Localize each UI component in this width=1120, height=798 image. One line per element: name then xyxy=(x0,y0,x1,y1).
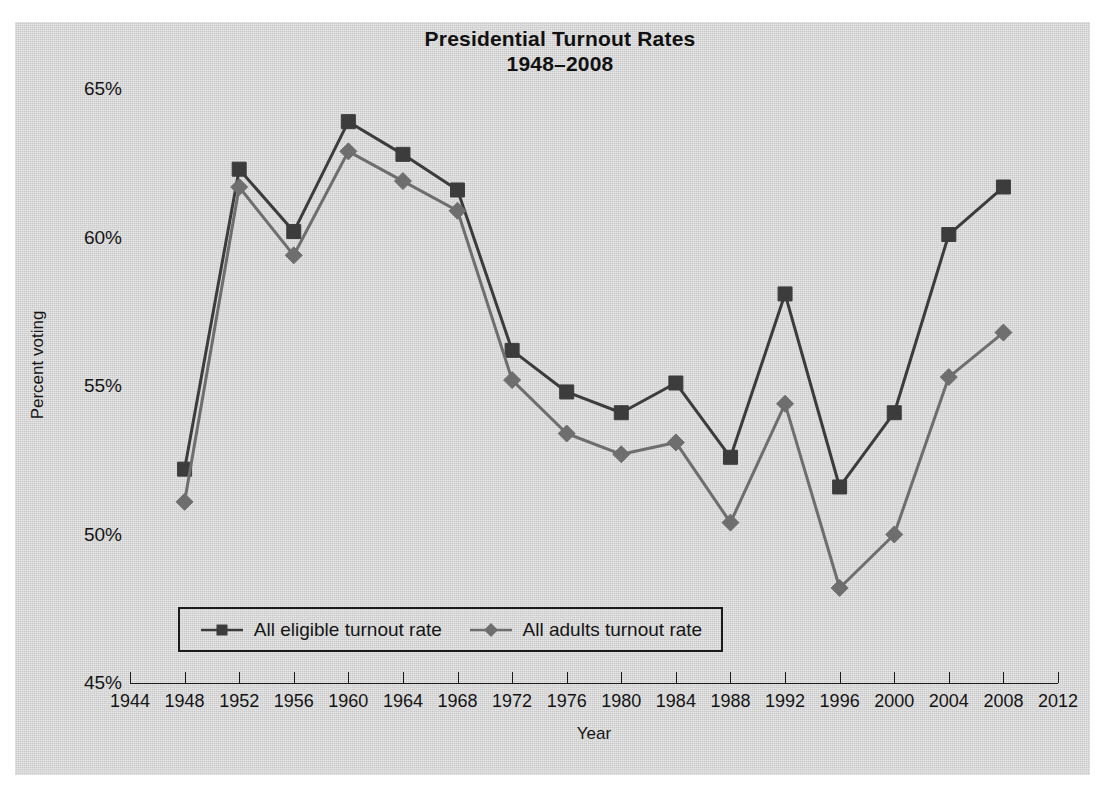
x-axis-tick-mark xyxy=(130,672,131,683)
series-adults xyxy=(176,143,1012,597)
data-point-marker xyxy=(394,173,411,190)
x-axis-tick-mark xyxy=(1003,672,1004,683)
chart-title: Presidential Turnout Rates 1948–2008 xyxy=(0,26,1120,76)
x-axis-tick-labels: 1944194819521956196019641968197219761980… xyxy=(130,691,1058,717)
x-axis-tick-mark xyxy=(458,672,459,683)
data-point-marker xyxy=(833,480,847,494)
legend-item[interactable]: All adults turnout rate xyxy=(468,619,703,641)
data-point-marker xyxy=(560,385,574,399)
y-axis-tick-label: 50% xyxy=(56,524,122,546)
legend-diamond-marker-icon xyxy=(468,621,514,639)
data-point-marker xyxy=(669,376,683,390)
x-axis-title: Year xyxy=(130,724,1058,744)
data-point-marker xyxy=(613,446,630,463)
x-axis-tick-mark xyxy=(185,672,186,683)
y-axis-title: Percent voting xyxy=(28,265,48,465)
x-axis-tick-marks xyxy=(130,672,1058,684)
legend-item[interactable]: All eligible turnout rate xyxy=(199,619,442,641)
data-point-marker xyxy=(778,287,792,301)
series-line xyxy=(185,122,1004,487)
chart-legend: All eligible turnout rateAll adults turn… xyxy=(178,607,723,652)
y-axis-tick-label: 60% xyxy=(56,227,122,249)
data-point-marker xyxy=(614,406,628,420)
y-axis-tick-labels: 65%60%55%50%45% xyxy=(50,89,122,683)
x-axis-tick-mark xyxy=(403,672,404,683)
y-axis-tick-label: 55% xyxy=(56,375,122,397)
data-point-marker xyxy=(667,434,684,451)
data-point-marker xyxy=(722,514,739,531)
x-axis-tick-mark xyxy=(730,672,731,683)
series-line xyxy=(185,151,1004,588)
data-point-marker xyxy=(340,143,357,160)
x-axis-tick-mark xyxy=(894,672,895,683)
data-point-marker xyxy=(996,180,1010,194)
x-axis-tick-mark xyxy=(676,672,677,683)
x-axis-tick-mark xyxy=(840,672,841,683)
data-point-marker xyxy=(287,225,301,239)
x-axis-tick-mark xyxy=(785,672,786,683)
data-point-marker xyxy=(396,147,410,161)
data-point-marker xyxy=(176,493,193,510)
plot-area xyxy=(130,89,1058,683)
x-axis-tick-mark xyxy=(239,672,240,683)
series-canvas xyxy=(130,89,1058,683)
data-point-marker xyxy=(232,162,246,176)
data-point-marker xyxy=(942,228,956,242)
y-axis-tick-label: 65% xyxy=(56,78,122,100)
legend-item-label: All eligible turnout rate xyxy=(254,619,442,641)
data-point-marker xyxy=(723,450,737,464)
x-axis-tick-mark xyxy=(294,672,295,683)
x-axis-tick-mark xyxy=(512,672,513,683)
x-axis-tick-label: 2012 xyxy=(1023,691,1093,712)
data-point-marker xyxy=(341,115,355,129)
data-point-marker xyxy=(451,183,465,197)
legend-item-label: All adults turnout rate xyxy=(523,619,703,641)
chart-title-line1: Presidential Turnout Rates xyxy=(425,27,696,50)
x-axis-tick-mark xyxy=(949,672,950,683)
data-point-marker xyxy=(777,395,794,412)
data-point-marker xyxy=(505,343,519,357)
x-axis-tick-mark xyxy=(1058,672,1059,683)
x-axis-tick-mark xyxy=(621,672,622,683)
chart-title-line2: 1948–2008 xyxy=(0,51,1120,76)
x-axis-tick-mark xyxy=(348,672,349,683)
chart-figure: Presidential Turnout Rates 1948–2008 65%… xyxy=(0,0,1120,798)
data-point-marker xyxy=(887,406,901,420)
series-eligible xyxy=(178,115,1011,494)
x-axis-tick-mark xyxy=(567,672,568,683)
legend-square-marker-icon xyxy=(199,621,245,639)
